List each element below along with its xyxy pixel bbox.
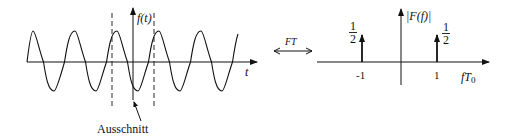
fourier-transform-symbol: FT xyxy=(274,36,312,51)
weight-denominator: 2 xyxy=(350,32,356,46)
t-axis-label: t xyxy=(245,65,249,79)
magnitude-axis-label: |F(f)| xyxy=(406,9,431,23)
freq-axis-label-sub: 0 xyxy=(471,75,476,85)
impulse-weight-negative: 1 2 xyxy=(349,19,357,46)
weight-numerator: 1 xyxy=(350,19,356,33)
frequency-domain-plot: 1 2 1 2 -1 1 |F(f)| fT0 xyxy=(317,9,489,85)
weight-numerator: 1 xyxy=(443,20,449,34)
window-pointer-arrow xyxy=(134,102,141,121)
weight-denominator: 2 xyxy=(443,33,449,47)
tick-label-minus-1: -1 xyxy=(356,69,365,81)
tick-label-1: 1 xyxy=(434,69,440,81)
diagram-canvas: f(t) t Ausschnitt FT 1 2 1 2 -1 1 xyxy=(0,0,512,140)
f-axis-label: f(t) xyxy=(137,11,152,25)
ft-label: FT xyxy=(284,36,298,47)
impulse-weight-positive: 1 2 xyxy=(442,20,450,47)
window-annotation: Ausschnitt xyxy=(97,122,149,136)
time-domain-plot: f(t) t Ausschnitt xyxy=(27,8,257,136)
freq-axis-label: fT0 xyxy=(461,70,476,85)
